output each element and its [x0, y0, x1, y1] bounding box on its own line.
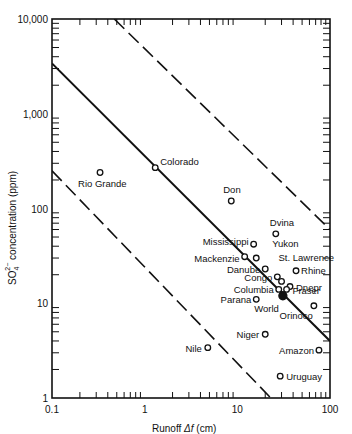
- point-label: Niger: [237, 329, 260, 340]
- point-label: Uruguay: [286, 371, 322, 382]
- point-label: Yukon: [272, 238, 298, 249]
- point-label: Rio Grande: [78, 178, 127, 189]
- point-label: Amazon: [279, 345, 314, 356]
- data-point-rio-grande: [97, 170, 103, 176]
- data-point-orinoco: [311, 303, 317, 309]
- data-point-st-lawrence: [279, 279, 285, 285]
- data-point-don: [228, 198, 234, 204]
- runoff-sulfate-chart: 0.11101001101001,00010,000Runoff Δf (cm)…: [0, 0, 352, 434]
- y-tick-label: 1: [42, 393, 48, 404]
- data-point-parana: [253, 297, 259, 303]
- data-point-amazon: [316, 347, 322, 353]
- x-tick-label: 10: [232, 404, 244, 415]
- dashed-reference-line: [114, 19, 330, 230]
- point-label: Parana: [221, 294, 252, 305]
- x-axis-title: Runoff Δf (cm): [152, 423, 216, 434]
- point-label: Orinoco: [280, 310, 313, 321]
- point-label: World: [254, 303, 279, 314]
- point-label: Dvina: [270, 217, 295, 228]
- data-point-rhine: [293, 268, 299, 274]
- data-point-mackenzie: [242, 254, 248, 260]
- point-label: St. Lawrence: [279, 252, 334, 263]
- data-point-columbia: [276, 287, 282, 293]
- plot-frame: [52, 19, 330, 398]
- y-tick-label: 10: [37, 298, 49, 309]
- data-point-nile: [205, 345, 211, 351]
- point-label: Congo: [244, 272, 272, 283]
- solid-reference-line: [52, 63, 330, 341]
- y-tick-label: 1,000: [23, 109, 48, 120]
- point-label: Mackenzie: [194, 253, 239, 264]
- y-tick-label: 10,000: [17, 14, 48, 25]
- x-tick-label: 0.1: [45, 404, 59, 415]
- y-tick-label: 100: [31, 204, 48, 215]
- point-label: Colorado: [160, 156, 199, 167]
- data-point-congo: [275, 274, 281, 280]
- data-point-uruguay: [277, 373, 283, 379]
- data-point-colorado: [152, 165, 158, 171]
- point-label: Fraser: [293, 285, 320, 296]
- x-tick-label: 100: [322, 404, 339, 415]
- data-point-fraser: [284, 287, 290, 293]
- data-point-niger: [262, 332, 268, 338]
- x-tick-label: 1: [142, 404, 148, 415]
- y-axis-title: SO42− concentration (ppm): [4, 171, 20, 285]
- point-label: Don: [223, 184, 240, 195]
- data-point-world: [279, 292, 287, 300]
- data-point-yukon: [253, 255, 259, 261]
- data-point-dvina: [273, 231, 279, 237]
- data-point-mississippi: [251, 241, 257, 247]
- point-label: Nile: [185, 343, 201, 354]
- point-label: Rhine: [301, 265, 326, 276]
- point-label: Mississippi: [203, 236, 249, 247]
